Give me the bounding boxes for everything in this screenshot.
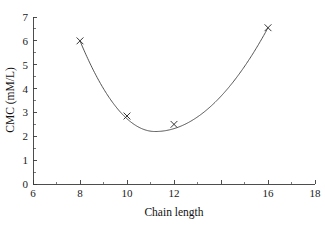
y-tick-label: 3 bbox=[23, 106, 29, 118]
data-point-marker bbox=[265, 24, 272, 31]
y-tick-label: 0 bbox=[23, 178, 29, 190]
y-tick-labels: 01234567 bbox=[23, 11, 29, 190]
y-tick-label: 2 bbox=[23, 130, 29, 142]
y-tick-label: 6 bbox=[23, 35, 29, 47]
x-axis-title: Chain length bbox=[144, 206, 203, 219]
y-tick-label: 5 bbox=[23, 59, 29, 71]
major-tick-group-x bbox=[33, 180, 315, 184]
x-tick-label: 16 bbox=[263, 187, 275, 199]
chart-plot-area: 6810121618 01234567 Chain length CMC (mM… bbox=[0, 0, 325, 226]
data-point-marker bbox=[77, 37, 84, 44]
data-series-curve bbox=[80, 28, 268, 132]
y-tick-label: 7 bbox=[23, 11, 29, 23]
x-tick-labels: 6810121618 bbox=[30, 187, 321, 199]
y-tick-label: 4 bbox=[23, 83, 29, 95]
chart-figure: 6810121618 01234567 Chain length CMC (mM… bbox=[0, 0, 325, 226]
x-tick-label: 12 bbox=[169, 187, 180, 199]
data-point-marker bbox=[171, 121, 178, 128]
y-axis-title: CMC (mM/L) bbox=[4, 67, 17, 133]
x-tick-label: 18 bbox=[310, 187, 322, 199]
y-tick-label: 1 bbox=[23, 154, 29, 166]
x-tick-label: 6 bbox=[30, 187, 36, 199]
data-point-markers bbox=[77, 24, 272, 127]
x-tick-label: 10 bbox=[122, 187, 134, 199]
x-tick-label: 8 bbox=[77, 187, 83, 199]
